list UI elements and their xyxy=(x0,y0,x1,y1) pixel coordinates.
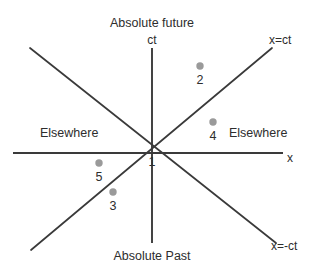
event-label-3: 3 xyxy=(110,200,117,213)
x-equals-ct-label: x=ct xyxy=(269,34,291,46)
event-label-1: 1 xyxy=(149,156,156,169)
event-label-4: 4 xyxy=(210,130,217,143)
elsewhere-right-label: Elsewhere xyxy=(229,127,287,140)
event-dot-5 xyxy=(95,159,102,166)
event-dot-2 xyxy=(196,62,203,69)
ct-axis-label: ct xyxy=(147,34,156,46)
event-dot-3 xyxy=(109,188,116,195)
x-equals-minus-ct-label: x=-ct xyxy=(271,240,297,252)
x-axis-label: x xyxy=(287,152,293,164)
absolute-future-label: Absolute future xyxy=(110,17,194,30)
event-label-5: 5 xyxy=(96,171,103,184)
absolute-past-label: Absolute Past xyxy=(113,250,190,263)
elsewhere-left-label: Elsewhere xyxy=(40,127,98,140)
event-label-2: 2 xyxy=(197,74,204,87)
event-dot-4 xyxy=(209,118,216,125)
light-cone-line-negative xyxy=(30,48,276,243)
spacetime-diagram: Absolute future ct x=ct Elsewhere Elsewh… xyxy=(0,0,321,277)
